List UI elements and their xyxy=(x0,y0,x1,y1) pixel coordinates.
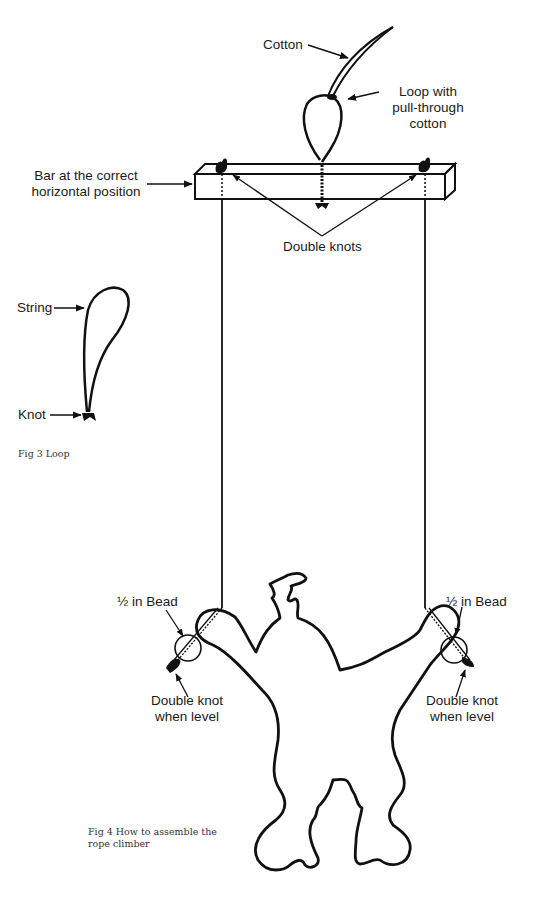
top-loop xyxy=(304,95,342,162)
label-bar-line2: horizontal position xyxy=(21,184,151,200)
label-knot-right-line2: when level xyxy=(412,709,512,725)
label-loop-line3: cotton xyxy=(378,116,478,132)
label-double-knots: Double knots xyxy=(283,239,362,255)
caption-fig4-line2: rope climber xyxy=(88,838,217,850)
label-knot: Knot xyxy=(18,407,46,423)
label-knot-right-line1: Double knot xyxy=(412,693,512,709)
label-loop-line1: Loop with xyxy=(378,84,478,100)
label-loop-line2: pull-through xyxy=(378,100,478,116)
loop-knot xyxy=(327,94,337,100)
diagram-artwork xyxy=(0,0,538,911)
wooden-bar xyxy=(195,164,455,199)
label-knot-left-line1: Double knot xyxy=(137,693,237,709)
label-bar: Bar at the correct horizontal position xyxy=(21,168,151,200)
label-string: String xyxy=(17,300,52,316)
label-bead-right: ½ in Bead xyxy=(446,594,507,610)
label-cotton: Cotton xyxy=(263,37,303,53)
caption-fig3: Fig 3 Loop xyxy=(18,448,70,460)
fig3-loop xyxy=(84,288,128,412)
label-knot-left: Double knot when level xyxy=(137,693,237,725)
label-knot-left-line2: when level xyxy=(137,709,237,725)
fig3-knot xyxy=(82,413,96,421)
label-bar-line1: Bar at the correct xyxy=(21,168,151,184)
caption-fig4: Fig 4 How to assemble the rope climber xyxy=(88,826,217,850)
label-loop: Loop with pull-through cotton xyxy=(378,84,478,132)
label-bead-left: ½ in Bead xyxy=(117,594,178,610)
label-knot-right: Double knot when level xyxy=(412,693,512,725)
caption-fig4-line1: Fig 4 How to assemble the xyxy=(88,826,217,838)
